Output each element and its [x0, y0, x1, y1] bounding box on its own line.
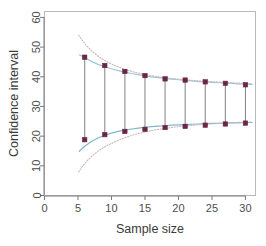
- y-axis-tick-label: 40: [31, 71, 43, 83]
- x-axis-tick-label: 0: [41, 202, 47, 214]
- data-point-marker: [123, 129, 127, 133]
- data-point-marker: [203, 123, 207, 127]
- data-point-marker: [183, 78, 187, 82]
- x-axis-tick-label: 30: [239, 202, 251, 214]
- data-point-marker: [243, 83, 247, 87]
- plot-box: [45, 12, 256, 196]
- confidence-interval-scatter-plot: 0510152025300102030405060Sample sizeConf…: [0, 0, 266, 246]
- data-point-marker: [103, 132, 107, 136]
- data-point-marker: [82, 55, 86, 59]
- x-axis-tick-label: 10: [105, 202, 117, 214]
- y-axis-tick-label: 0: [31, 192, 43, 198]
- data-point-marker: [163, 77, 167, 81]
- data-point-marker: [163, 125, 167, 129]
- data-point-marker: [103, 63, 107, 67]
- data-point-marker: [183, 124, 187, 128]
- data-point-marker: [143, 127, 147, 131]
- x-axis-tick-label: 20: [172, 202, 184, 214]
- plot-figure: 0510152025300102030405060Sample sizeConf…: [0, 0, 266, 246]
- y-axis-tick-label: 60: [31, 11, 43, 23]
- data-point-marker: [123, 69, 127, 73]
- x-axis-tick-label: 25: [206, 202, 218, 214]
- data-point-marker: [243, 121, 247, 125]
- y-axis-tick-label: 10: [31, 160, 43, 172]
- data-point-marker: [223, 122, 227, 126]
- y-axis-tick-label: 50: [31, 41, 43, 53]
- y-axis-tick-label: 20: [31, 130, 43, 142]
- data-point-marker: [143, 73, 147, 77]
- x-axis: 051015202530: [41, 196, 251, 214]
- x-axis-tick-label: 5: [75, 202, 81, 214]
- y-axis: 0102030405060: [31, 11, 45, 198]
- y-axis-tick-label: 30: [31, 100, 43, 112]
- data-point-marker: [223, 81, 227, 85]
- y-axis-title: Confidence interval: [7, 50, 21, 157]
- data-point-marker: [82, 138, 86, 142]
- data-point-marker: [203, 80, 207, 84]
- x-axis-tick-label: 15: [139, 202, 151, 214]
- x-axis-title: Sample size: [116, 222, 184, 236]
